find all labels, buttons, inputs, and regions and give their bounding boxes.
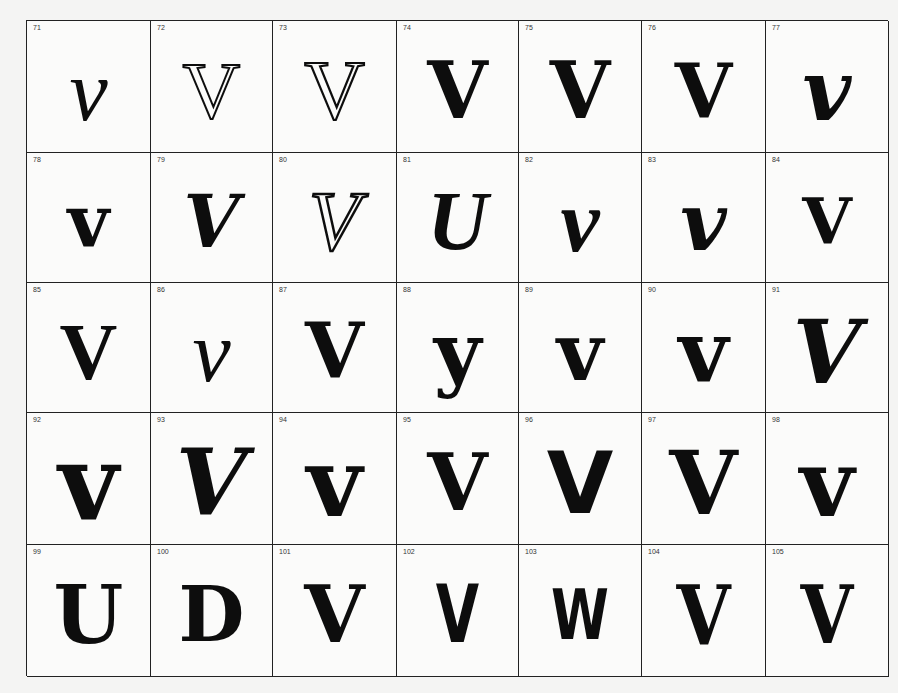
specimen-cell-94: 94 v <box>273 413 397 545</box>
letter-glyph-looped-uncial: v <box>27 167 150 276</box>
specimen-cell-74: 74 V <box>397 21 519 153</box>
specimen-number: 97 <box>648 416 656 423</box>
specimen-number: 101 <box>279 548 291 555</box>
letter-glyph-inline-serif: V <box>273 35 396 146</box>
letter-glyph-inline-script: U <box>397 167 518 276</box>
letter-glyph-heavy-swash: v <box>642 167 765 276</box>
specimen-number: 89 <box>525 286 533 293</box>
letter-glyph-flared-roman: V <box>27 297 150 406</box>
specimen-cell-96: 96 V <box>519 413 642 545</box>
letter-glyph-bold-curl-round: v <box>273 427 396 538</box>
specimen-cell-86: 86 v <box>151 283 273 413</box>
specimen-cell-90: 90 v <box>642 283 766 413</box>
letter-glyph-swash-bold: V <box>151 167 272 276</box>
specimen-number: 96 <box>525 416 533 423</box>
letter-glyph-spiral-arm: V <box>273 559 396 670</box>
specimen-number: 80 <box>279 156 287 163</box>
specimen-number: 91 <box>772 286 780 293</box>
specimen-cell-89: 89 v <box>519 283 642 413</box>
specimen-number: 93 <box>157 416 165 423</box>
specimen-number: 92 <box>33 416 41 423</box>
specimen-cell-88: 88 y <box>397 283 519 413</box>
specimen-number: 74 <box>403 24 411 31</box>
specimen-cell-87: 87 V <box>273 283 397 413</box>
letter-glyph-heavy-curl-right: v <box>766 427 888 538</box>
letter-glyph-heavy-curl-left: v <box>27 427 150 538</box>
specimen-number: 86 <box>157 286 165 293</box>
specimen-number: 85 <box>33 286 41 293</box>
letter-glyph-wide-swash: V <box>766 297 888 406</box>
specimen-number: 83 <box>648 156 656 163</box>
specimen-number: 100 <box>157 548 169 555</box>
specimen-cell-71: 71 v <box>27 21 151 153</box>
letter-glyph-spurred-blackletter: V <box>519 35 641 146</box>
specimen-number: 94 <box>279 416 287 423</box>
specimen-sheet: 71 v 72 V 73 V 74 V 75 V 76 V 77 v 78 v … <box>26 20 888 676</box>
letter-glyph-heavy-sweep: V <box>151 427 272 538</box>
letter-glyph-curled-narrow: v <box>519 297 641 406</box>
specimen-number: 79 <box>157 156 165 163</box>
letter-glyph-heavy-wedge: V <box>519 427 641 538</box>
specimen-number: 105 <box>772 548 784 555</box>
specimen-cell-102: 102 V <box>397 545 519 677</box>
specimen-number: 75 <box>525 24 533 31</box>
specimen-cell-82: 82 v <box>519 153 642 283</box>
letter-glyph-rounded-blob: D <box>151 559 272 670</box>
letter-glyph-shaded-script: V <box>273 167 396 276</box>
specimen-number: 104 <box>648 548 660 555</box>
specimen-cell-78: 78 v <box>27 153 151 283</box>
letter-glyph-condensed-flare: V <box>415 559 500 670</box>
specimen-cell-92: 92 v <box>27 413 151 545</box>
letter-glyph-bold-slab: V <box>642 35 765 146</box>
letter-glyph-dotted-flared: V <box>775 559 879 670</box>
specimen-number: 95 <box>403 416 411 423</box>
letter-glyph-swash-script: v <box>519 167 641 276</box>
letter-glyph-ornate-curled: V <box>397 35 518 146</box>
specimen-number: 78 <box>33 156 41 163</box>
specimen-number: 98 <box>772 416 780 423</box>
specimen-cell-104: 104 V <box>642 545 766 677</box>
specimen-number: 72 <box>157 24 165 31</box>
specimen-cell-93: 93 V <box>151 413 273 545</box>
specimen-cell-103: 103 W <box>519 545 642 677</box>
letter-glyph-pointed-blackletter: U <box>27 559 150 670</box>
specimen-cell-101: 101 V <box>273 545 397 677</box>
specimen-cell-84: 84 V <box>766 153 889 283</box>
specimen-number: 103 <box>525 548 537 555</box>
letter-glyph-outline-serif: V <box>151 35 272 146</box>
specimen-number: 88 <box>403 286 411 293</box>
specimen-cell-77: 77 v <box>766 21 889 153</box>
letter-glyph-heavy-uncial: v <box>642 297 765 406</box>
specimen-number: 90 <box>648 286 656 293</box>
specimen-number: 73 <box>279 24 287 31</box>
specimen-number: 76 <box>648 24 656 31</box>
specimen-cell-99: 99 U <box>27 545 151 677</box>
specimen-cell-91: 91 V <box>766 283 889 413</box>
specimen-cell-73: 73 V <box>273 21 397 153</box>
specimen-cell-95: 95 V <box>397 413 519 545</box>
letter-glyph-heavy-flared: V <box>642 427 765 538</box>
letter-glyph-tailed-bold: y <box>397 297 518 406</box>
specimen-number: 81 <box>403 156 411 163</box>
specimen-number: 87 <box>279 286 287 293</box>
letter-glyph-light-script: v <box>151 297 272 406</box>
specimen-number: 77 <box>772 24 780 31</box>
letter-glyph-italic-script: v <box>27 35 150 146</box>
specimen-number: 99 <box>33 548 41 555</box>
specimen-cell-72: 72 V <box>151 21 273 153</box>
specimen-number: 82 <box>525 156 533 163</box>
letter-glyph-tuscan-flared: V <box>651 559 756 670</box>
letter-glyph-curled-tendril: V <box>766 167 888 276</box>
letter-glyph-bold-italic: v <box>766 35 888 146</box>
letter-glyph-bold-curl: V <box>273 297 396 406</box>
specimen-cell-79: 79 V <box>151 153 273 283</box>
specimen-grid: 71 v 72 V 73 V 74 V 75 V 76 V 77 v 78 v … <box>26 20 888 676</box>
specimen-cell-98: 98 v <box>766 413 889 545</box>
specimen-number: 84 <box>772 156 780 163</box>
specimen-cell-81: 81 U <box>397 153 519 283</box>
specimen-number: 71 <box>33 24 41 31</box>
letter-glyph-ligature-ornate: W <box>534 559 626 670</box>
specimen-cell-97: 97 V <box>642 413 766 545</box>
letter-glyph-curled-inner: V <box>397 427 518 538</box>
specimen-cell-85: 85 V <box>27 283 151 413</box>
